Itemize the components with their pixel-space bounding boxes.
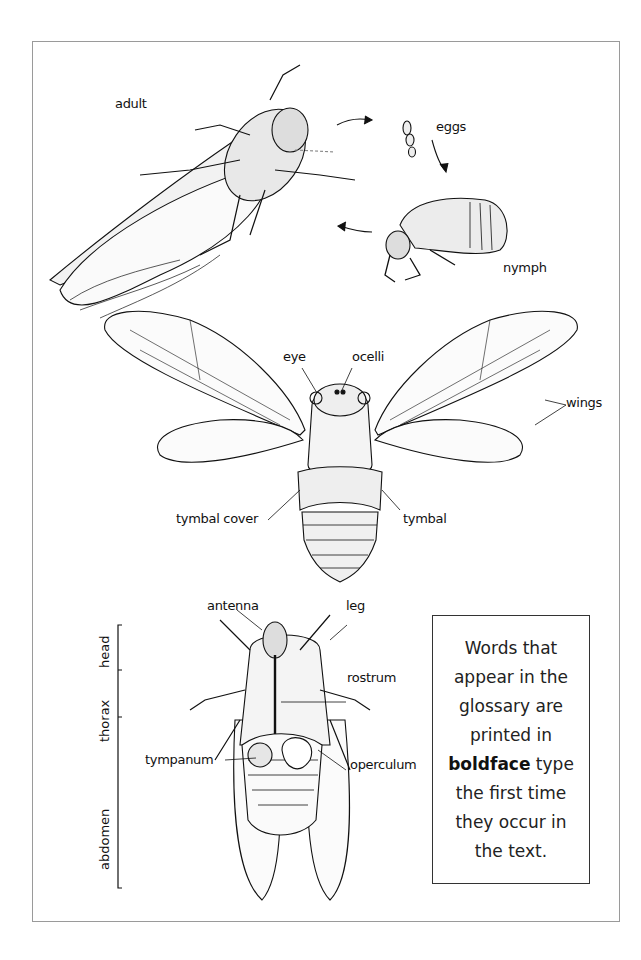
note-line: glossary are: [459, 692, 563, 721]
adult-cicada-drawing: [50, 65, 355, 318]
note-line: Words that: [465, 634, 557, 663]
label-tympanum: tympanum: [145, 752, 213, 767]
dorsal-cicada-drawing: [105, 311, 578, 582]
label-antenna: antenna: [207, 598, 259, 613]
after-bold: type: [530, 754, 573, 774]
body-region-bracket: [118, 625, 122, 888]
note-line: the text.: [475, 837, 547, 866]
note-line: appear in the: [454, 663, 568, 692]
glossary-note-box: Words that appear in the glossary are pr…: [432, 615, 590, 884]
label-thorax: thorax: [97, 700, 112, 742]
eggs-drawing: [403, 121, 416, 157]
note-line: they occur in: [455, 808, 566, 837]
label-operculum: operculum: [350, 757, 416, 772]
label-nymph: nymph: [503, 260, 547, 275]
label-tymbal: tymbal: [403, 511, 446, 526]
nymph-drawing: [385, 198, 507, 282]
note-line-bold: boldface type: [448, 750, 574, 779]
label-leg: leg: [346, 598, 365, 613]
label-tymbal-cover: tymbal cover: [176, 511, 258, 526]
note-line: printed in: [470, 721, 552, 750]
label-rostrum: rostrum: [347, 670, 396, 685]
label-ocelli: ocelli: [352, 349, 384, 364]
label-eye: eye: [283, 349, 306, 364]
bold-word: boldface: [448, 754, 530, 774]
ventral-cicada-drawing: [190, 615, 370, 900]
label-wings: wings: [566, 395, 602, 410]
label-eggs: eggs: [436, 119, 466, 134]
label-head: head: [97, 636, 112, 668]
note-line: the first time: [456, 779, 566, 808]
label-abdomen: abdomen: [97, 809, 112, 870]
label-adult: adult: [115, 96, 147, 111]
